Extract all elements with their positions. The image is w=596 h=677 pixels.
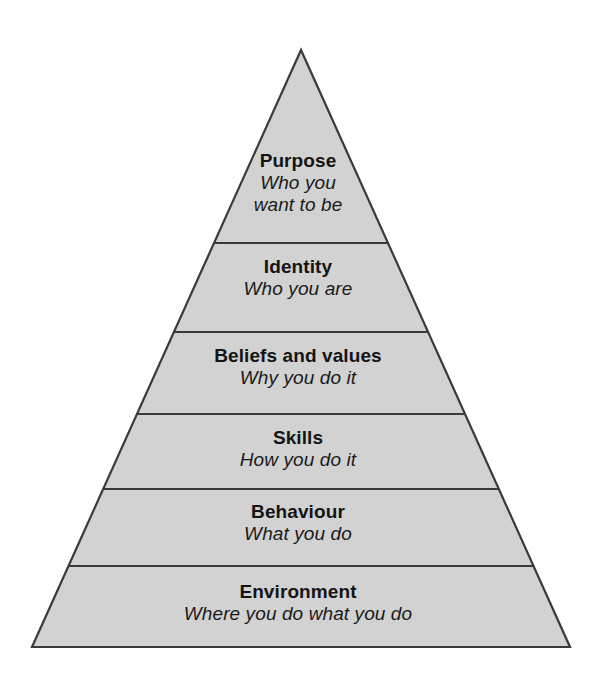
level-title-behaviour: Behaviour: [0, 501, 596, 523]
pyramid-level-identity: Identity Who you are: [0, 256, 596, 300]
level-subtitle-environment: Where you do what you do: [0, 603, 596, 625]
level-subtitle-identity: Who you are: [0, 278, 596, 300]
level-subtitle-behaviour: What you do: [0, 523, 596, 545]
level-subtitle-beliefs-and-values: Why you do it: [0, 367, 596, 389]
level-title-skills: Skills: [0, 427, 596, 449]
level-title-purpose: Purpose: [0, 150, 596, 172]
level-title-identity: Identity: [0, 256, 596, 278]
pyramid-level-behaviour: Behaviour What you do: [0, 501, 596, 545]
level-subtitle-purpose: Who you want to be: [0, 172, 596, 216]
pyramid-shape: [0, 0, 596, 677]
pyramid-diagram: Purpose Who you want to be Identity Who …: [0, 0, 596, 677]
level-subtitle-skills: How you do it: [0, 449, 596, 471]
pyramid-level-purpose: Purpose Who you want to be: [0, 150, 596, 216]
level-title-beliefs-and-values: Beliefs and values: [0, 345, 596, 367]
pyramid-level-skills: Skills How you do it: [0, 427, 596, 471]
pyramid-level-environment: Environment Where you do what you do: [0, 581, 596, 625]
level-title-environment: Environment: [0, 581, 596, 603]
pyramid-level-beliefs-and-values: Beliefs and values Why you do it: [0, 345, 596, 389]
